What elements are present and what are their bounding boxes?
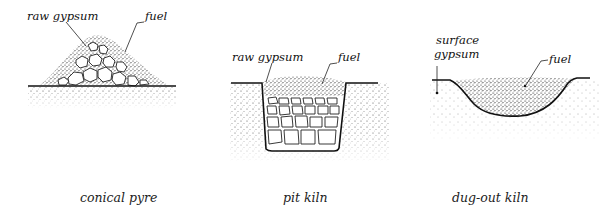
raw-gypsum-leader bbox=[266, 63, 272, 82]
label-raw-gypsum: raw gypsum bbox=[27, 9, 98, 23]
fuel-leader bbox=[125, 22, 144, 52]
label-raw-gypsum: raw gypsum bbox=[232, 50, 303, 64]
label-fuel: fuel bbox=[337, 50, 360, 64]
caption-pit-kiln: pit kiln bbox=[283, 190, 328, 205]
kiln-diagram: raw gypsum fuel bbox=[0, 0, 601, 221]
raw-gypsum-leader bbox=[66, 22, 86, 46]
pit-kiln-diagram: raw gypsum fuel bbox=[230, 50, 390, 165]
label-surface-gypsum-line2: gypsum bbox=[434, 47, 480, 61]
fuel-layer bbox=[263, 76, 346, 96]
label-fuel: fuel bbox=[144, 9, 167, 23]
label-fuel: fuel bbox=[548, 52, 571, 66]
conical-pyre-diagram: raw gypsum fuel bbox=[27, 9, 176, 110]
label-surface-gypsum-line1: surface bbox=[436, 33, 479, 47]
caption-conical-pyre: conical pyre bbox=[80, 190, 157, 205]
caption-dug-out-kiln: dug-out kiln bbox=[452, 190, 528, 205]
dug-out-kiln-diagram: surface gypsum fuel bbox=[430, 33, 600, 143]
